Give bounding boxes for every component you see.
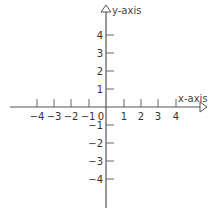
x-tick-label: 4 xyxy=(173,111,179,122)
y-tick-label: 3 xyxy=(97,48,103,59)
y-tick-label: −2 xyxy=(88,138,103,149)
y-tick-label: 4 xyxy=(97,30,103,41)
x-tick-labels: −4 −3 −2 −1 1 2 3 4 xyxy=(30,111,180,122)
coordinate-plane: −4 −3 −2 −1 1 2 3 4 0 4 3 2 1 −1 −2 −3 −… xyxy=(0,0,215,212)
y-tick-label: 2 xyxy=(97,66,103,77)
y-tick-label: −3 xyxy=(88,156,103,167)
y-axis-arrow-icon xyxy=(101,5,111,12)
x-tick-label: 2 xyxy=(138,111,144,122)
x-tick-label: −2 xyxy=(64,111,79,122)
x-tick-label: 3 xyxy=(155,111,161,122)
x-tick-label: −4 xyxy=(30,111,45,122)
x-tick-label: −3 xyxy=(47,111,62,122)
y-tick-label: −4 xyxy=(88,174,103,185)
y-tick-label: 1 xyxy=(97,84,103,95)
y-tick-label: −1 xyxy=(88,120,103,131)
x-axis-label: x-axis xyxy=(178,93,208,104)
y-axis-label: y-axis xyxy=(112,5,141,16)
x-tick-label: 1 xyxy=(121,111,127,122)
